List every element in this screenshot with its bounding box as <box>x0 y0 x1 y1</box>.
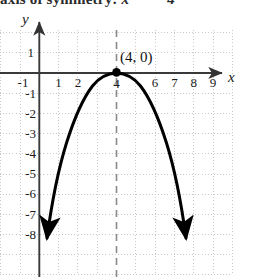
x-axis-label: x <box>227 69 235 85</box>
y-tick--4: -4 <box>25 146 36 161</box>
y-tick--2: -2 <box>25 106 36 121</box>
vertex-label: (4, 0) <box>120 49 153 66</box>
parabola-figure: axis of symmetry: x 4 <box>0 0 255 277</box>
y-tick--1: -1 <box>25 86 36 101</box>
x-tick-6: 6 <box>152 75 159 90</box>
x-tick-9: 9 <box>210 75 217 90</box>
y-tick-1: 1 <box>28 45 35 60</box>
parabola-right-branch <box>117 73 187 238</box>
x-tick-8: 8 <box>190 75 197 90</box>
graph-canvas: (4, 0) y x -1 1 2 4 6 7 8 9 1 -1 -2 -3 -… <box>0 0 255 277</box>
x-tick-7: 7 <box>171 75 178 90</box>
y-tick--5: -5 <box>25 166 36 181</box>
parabola-left-branch <box>47 73 117 238</box>
y-tick--3: -3 <box>25 126 36 141</box>
x-tick-labels: -1 1 2 4 6 7 8 9 <box>18 75 217 91</box>
x-tick-1: 1 <box>55 75 62 90</box>
y-tick--7: -7 <box>25 207 36 222</box>
x-tick-4: 4 <box>113 76 120 91</box>
x-tick-2: 2 <box>75 75 82 90</box>
y-axis-label: y <box>20 11 29 27</box>
y-tick--8: -8 <box>25 227 36 242</box>
y-tick--6: -6 <box>25 186 36 201</box>
